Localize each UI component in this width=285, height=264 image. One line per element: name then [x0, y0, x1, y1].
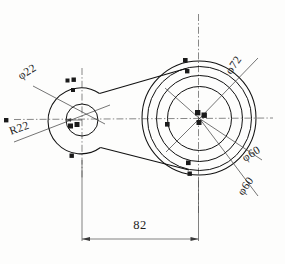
mark-11 — [197, 120, 202, 125]
lower-flank-line — [101, 148, 190, 171]
leader-r22 — [14, 105, 110, 142]
centerlines-group — [14, 14, 273, 214]
label-phi22: φ22 — [16, 61, 39, 82]
mark-1 — [66, 79, 70, 83]
horizontal-centerline — [14, 118, 273, 120]
mark-13 — [186, 161, 191, 166]
mark-3 — [71, 88, 75, 92]
radial-leaders-group — [14, 58, 262, 196]
mark-14 — [188, 172, 192, 176]
mark-9 — [195, 110, 200, 115]
mark-2 — [72, 78, 76, 82]
label-phi60-lower: φ60 — [235, 175, 257, 198]
scan-artifact-marks — [4, 58, 207, 176]
radial-tick-upper-left — [165, 88, 200, 119]
mark-7 — [183, 58, 188, 63]
leader-phi22 — [33, 86, 105, 124]
mark-12 — [165, 122, 170, 127]
annotation-text-group: φ22 R22 φ72 φ60 φ60 82 — [8, 54, 263, 232]
mark-15 — [4, 118, 8, 122]
mark-4 — [68, 124, 73, 129]
mark-6 — [70, 154, 74, 158]
radial-tick-lower-left — [166, 119, 200, 153]
drawing-svg: φ22 R22 φ72 φ60 φ60 82 — [0, 0, 285, 264]
label-r22: R22 — [8, 119, 31, 137]
dim-arrow-right — [191, 237, 199, 241]
mark-5 — [75, 122, 80, 127]
dimension-value-82: 82 — [133, 218, 146, 232]
mark-10 — [202, 113, 207, 118]
engineering-drawing-canvas: φ22 R22 φ72 φ60 φ60 82 — [0, 0, 285, 264]
dim-arrow-left — [82, 237, 90, 241]
upper-flank-line — [100, 69, 187, 94]
mark-8 — [185, 69, 189, 73]
